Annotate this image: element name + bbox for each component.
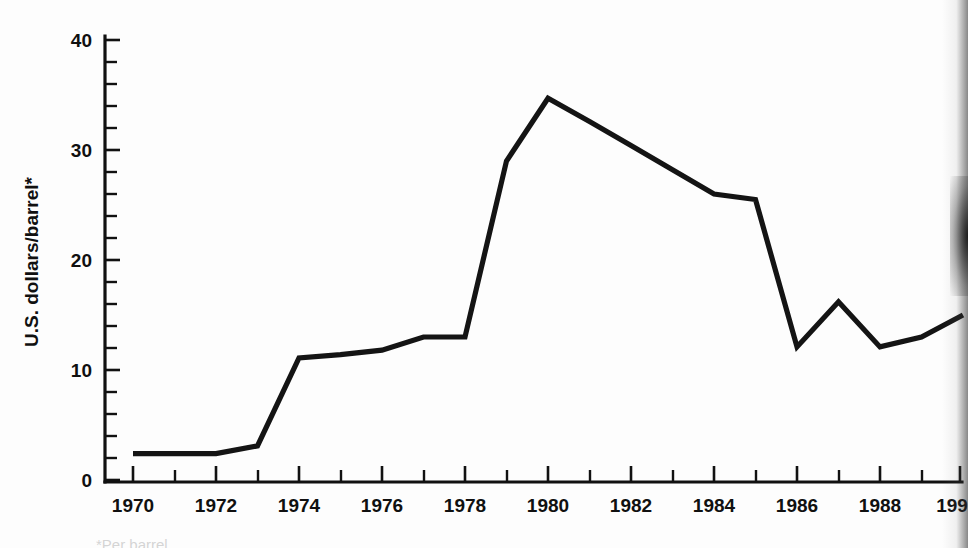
x-tick-label-1988: 1988 (859, 495, 901, 516)
data-series-crude-oil-price (133, 98, 963, 453)
x-tick-label-1978: 1978 (444, 495, 486, 516)
x-tick-label-1990-clipped: 199 (936, 495, 968, 516)
oil-price-line-chart: 0 10 20 30 40 U.S. dollars/barrel* (0, 0, 968, 548)
x-tick-label-1974: 1974 (278, 495, 321, 516)
x-tick-label-1972: 1972 (195, 495, 237, 516)
x-tick-label-1980: 1980 (527, 495, 569, 516)
y-tick-label-30: 30 (71, 140, 92, 161)
x-tick-label-1976: 1976 (361, 495, 403, 516)
y-tick-label-0: 0 (81, 470, 92, 491)
x-tick-label-1982: 1982 (610, 495, 652, 516)
y-axis-title: U.S. dollars/barrel* (21, 176, 42, 347)
x-tick-label-1984: 1984 (693, 495, 736, 516)
chart-figure: 0 10 20 30 40 U.S. dollars/barrel* (0, 0, 968, 548)
y-tick-label-10: 10 (71, 360, 92, 381)
x-tick-label-1970: 1970 (112, 495, 154, 516)
footnote-text: *Per barrel… (96, 536, 796, 548)
y-tick-label-40: 40 (71, 30, 92, 51)
y-tick-label-20: 20 (71, 250, 92, 271)
x-tick-label-1986: 1986 (776, 495, 818, 516)
